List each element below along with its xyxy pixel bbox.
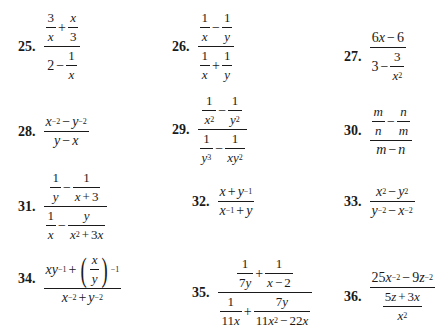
complex-fraction: 17y + 1x−2 111x + 7y11x2−22x [218, 256, 313, 329]
problem-31: 31. 1y − 1x+3 1x − yx2+3x [18, 170, 107, 243]
complex-fraction: 1y − 1x+3 1x − yx2+3x [44, 170, 108, 243]
complex-fraction: 1x2 − 1y2 1y3 − 1xy2 [198, 93, 247, 166]
problem-25: 25. 3x + x3 2− 1x [18, 10, 80, 83]
problem-26: 26. 1x − 1y 1x + 1y [172, 10, 234, 83]
complex-fraction: 3x + x3 2− 1x [44, 10, 81, 83]
complex-fraction: mn − nm m−n [370, 104, 413, 158]
problem-number: 35. [192, 285, 210, 301]
complex-fraction: 1x − 1y 1x + 1y [198, 10, 235, 83]
problem-32: 32. x+y−1 x−1+y [192, 184, 254, 219]
problem-35: 35. 17y + 1x−2 111x + 7y11x2−22x [192, 256, 312, 329]
problem-30: 30. mn − nm m−n [344, 104, 412, 158]
problem-27: 27. 6x−6 3− 3x2 [344, 30, 406, 84]
complex-fraction: xy−1 + ( xy )−1 x−2+y−2 [44, 252, 122, 306]
complex-fraction: 6x−6 3− 3x2 [370, 30, 407, 84]
complex-fraction: x−2−y−2 y−x [44, 114, 89, 149]
problem-number: 29. [172, 122, 190, 138]
problem-number: 33. [344, 194, 362, 210]
problem-34: 34. xy−1 + ( xy )−1 x−2+y−2 [18, 252, 121, 306]
problem-28: 28. x−2−y−2 y−x [18, 114, 89, 149]
complex-fraction: x2−y2 y−2−x−2 [370, 184, 415, 219]
problem-number: 26. [172, 39, 190, 55]
problem-33: 33. x2−y2 y−2−x−2 [344, 184, 415, 219]
problem-number: 27. [344, 49, 362, 65]
problem-number: 28. [18, 124, 36, 140]
problem-number: 30. [344, 123, 362, 139]
problem-number: 34. [18, 271, 36, 287]
problem-number: 36. [344, 289, 362, 305]
complex-fraction: 25x−2−9z−2 65z+3xx2 [370, 270, 436, 324]
problem-36: 36. 25x−2−9z−2 65z+3xx2 [344, 270, 435, 324]
complex-fraction: x+y−1 x−1+y [218, 184, 255, 219]
problem-number: 32. [192, 194, 210, 210]
problem-number: 31. [18, 199, 36, 215]
problem-29: 29. 1x2 − 1y2 1y3 − 1xy2 [172, 93, 247, 166]
problem-number: 25. [18, 39, 36, 55]
